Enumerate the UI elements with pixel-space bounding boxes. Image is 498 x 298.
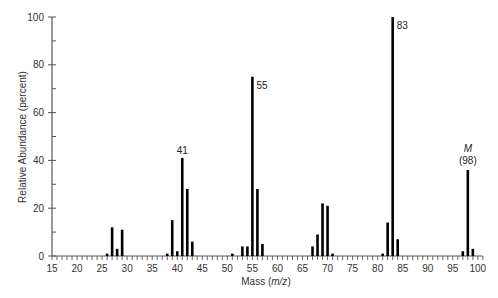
peak-bar-42 bbox=[186, 189, 189, 256]
peak-bar-40 bbox=[176, 251, 179, 256]
peak-bar-28 bbox=[116, 249, 119, 256]
x-tick-label: 45 bbox=[197, 263, 209, 274]
y-axis: 020406080100 bbox=[27, 12, 56, 262]
peak-bar-26 bbox=[106, 254, 109, 256]
peak-bars bbox=[106, 17, 474, 256]
x-tick-label: 20 bbox=[71, 263, 83, 274]
x-axis: 1520253035404550556065707580859095100 bbox=[46, 256, 486, 274]
peak-bar-97 bbox=[462, 251, 465, 256]
peak-bar-38 bbox=[166, 254, 169, 256]
peak-bar-29 bbox=[121, 230, 124, 256]
peak-bar-55 bbox=[251, 77, 254, 256]
molecular-ion-label: M bbox=[464, 143, 473, 154]
peak-bar-84 bbox=[396, 239, 399, 256]
y-tick-label: 60 bbox=[33, 107, 45, 118]
x-tick-label: 95 bbox=[447, 263, 459, 274]
x-tick-label: 100 bbox=[470, 263, 487, 274]
x-tick-label: 40 bbox=[172, 263, 184, 274]
x-tick-label: 85 bbox=[397, 263, 409, 274]
x-tick-label: 50 bbox=[222, 263, 234, 274]
peak-bar-27 bbox=[111, 227, 114, 256]
x-tick-label: 90 bbox=[422, 263, 434, 274]
peak-bar-43 bbox=[191, 242, 194, 256]
peak-bar-54 bbox=[246, 246, 249, 256]
peak-bar-39 bbox=[171, 220, 174, 256]
peak-bar-81 bbox=[381, 254, 384, 256]
peak-bar-82 bbox=[386, 223, 389, 256]
x-axis-title: Mass (m/z) bbox=[241, 276, 290, 287]
peak-label-55: 55 bbox=[256, 80, 268, 91]
peak-bar-68 bbox=[316, 234, 319, 256]
x-tick-label: 55 bbox=[247, 263, 259, 274]
peak-bar-70 bbox=[326, 206, 329, 256]
peak-bar-53 bbox=[241, 246, 244, 256]
y-tick-label: 0 bbox=[38, 251, 44, 262]
x-tick-label: 30 bbox=[122, 263, 134, 274]
peak-bar-71 bbox=[331, 254, 334, 256]
peak-bar-98 bbox=[467, 170, 470, 256]
x-tick-label: 80 bbox=[372, 263, 384, 274]
peak-bar-57 bbox=[261, 244, 264, 256]
x-tick-label: 65 bbox=[297, 263, 309, 274]
x-tick-label: 70 bbox=[322, 263, 334, 274]
peak-label-41: 41 bbox=[177, 145, 189, 156]
x-tick-label: 60 bbox=[272, 263, 284, 274]
y-tick-label: 20 bbox=[33, 203, 45, 214]
x-tick-label: 75 bbox=[347, 263, 359, 274]
mass-spectrum-chart: 020406080100 152025303540455055606570758… bbox=[0, 0, 498, 298]
peak-bar-51 bbox=[231, 254, 234, 256]
x-tick-label: 25 bbox=[97, 263, 109, 274]
x-tick-label: 35 bbox=[147, 263, 159, 274]
peak-bar-41 bbox=[181, 158, 184, 256]
y-tick-label: 80 bbox=[33, 59, 45, 70]
y-tick-label: 100 bbox=[27, 12, 44, 23]
x-tick-label: 15 bbox=[46, 263, 58, 274]
y-axis-title: Relative Abundance (percent) bbox=[17, 71, 28, 203]
peak-bar-56 bbox=[256, 189, 259, 256]
y-tick-label: 40 bbox=[33, 155, 45, 166]
peak-bar-67 bbox=[311, 246, 314, 256]
peak-annotations: 415583M(98) bbox=[177, 20, 477, 166]
peak-bar-83 bbox=[391, 17, 394, 256]
peak-bar-99 bbox=[472, 249, 475, 256]
molecular-ion-mass-label: (98) bbox=[459, 155, 477, 166]
peak-bar-69 bbox=[321, 203, 324, 256]
peak-label-83: 83 bbox=[397, 20, 409, 31]
